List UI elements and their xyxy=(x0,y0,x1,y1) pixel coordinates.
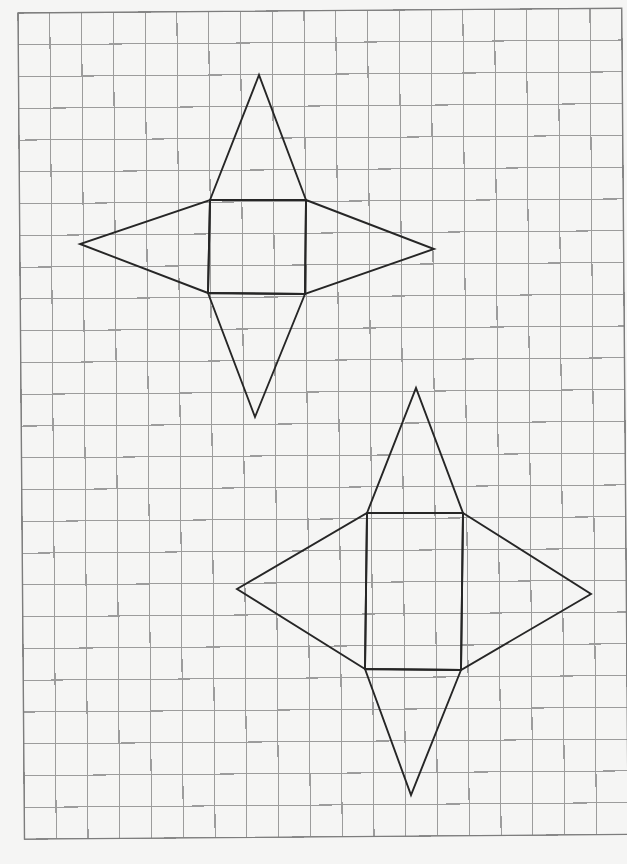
bottom-triangle-face xyxy=(365,669,461,795)
bottom-triangle-face xyxy=(208,293,305,417)
rectangle-base xyxy=(365,513,463,670)
right-triangle-face xyxy=(305,200,434,294)
left-triangle-face xyxy=(80,200,210,293)
square-pyramid-net xyxy=(80,75,434,417)
grid-paper: Nets of two pyramids on square grid pape… xyxy=(0,0,627,864)
left-triangle-face xyxy=(237,513,367,669)
pyramid-nets xyxy=(0,0,627,864)
top-triangle-face xyxy=(367,388,463,513)
square-base xyxy=(208,200,306,294)
top-triangle-face xyxy=(210,75,306,200)
right-triangle-face xyxy=(461,513,591,670)
rectangular-pyramid-net xyxy=(237,388,591,795)
